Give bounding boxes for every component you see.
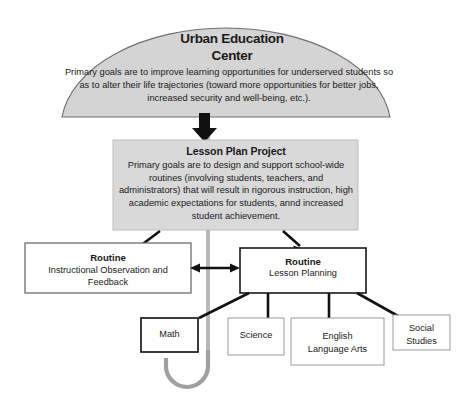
subject-label-social-studies: SocialStudies [393,322,450,347]
routine-left-title: Routine [25,252,191,263]
connectors-routine-to-subjects [199,293,398,318]
canopy-title-line-1: Urban Education [112,31,352,48]
canopy-title-line-2: Center [112,48,352,65]
routine-right-title: Routine [240,256,366,267]
canopy-title: Urban Education Center [112,31,352,64]
routine-right-description: Lesson Planning [240,268,366,279]
subject-label-science: Science [228,330,284,341]
routine-left-description: Instructional Observation and Feedback [29,264,187,289]
diagram-canvas: Urban Education Center Primary goals are… [0,0,472,418]
umbrella-handle-icon [166,350,208,387]
subject-label-english-language-arts: EnglishLanguage Arts [291,330,384,355]
canopy-description: Primary goals are to improve learning op… [64,66,394,106]
project-panel-description: Primary goals are to design and support … [118,159,354,222]
project-panel-title: Lesson Plan Project [122,145,350,158]
subject-label-math: Math [141,329,198,340]
arrow-between-routines [190,264,240,273]
